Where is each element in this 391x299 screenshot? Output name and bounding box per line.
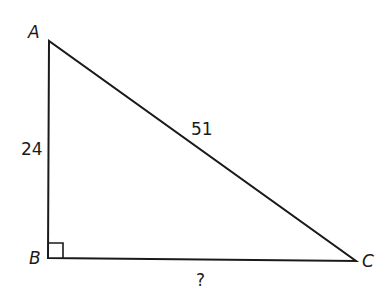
triangle-diagram: A B C 24 51 ?	[0, 0, 391, 299]
side-label-ab: 24	[21, 141, 43, 158]
vertex-label-c: C	[362, 253, 374, 270]
right-angle-marker	[48, 243, 63, 258]
vertex-label-b: B	[29, 250, 41, 267]
vertex-label-a: A	[28, 24, 40, 41]
triangle-abc	[48, 41, 356, 261]
side-label-bc: ?	[196, 272, 205, 289]
triangle-figure	[0, 0, 391, 299]
side-label-ac: 51	[191, 121, 213, 138]
